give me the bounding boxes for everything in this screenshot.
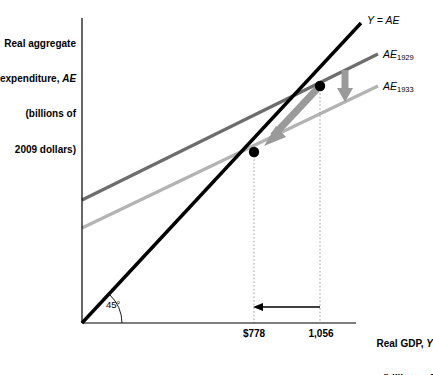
angle-45-label: 45° (106, 299, 120, 310)
series-label-ae-1933: AE1933 (383, 80, 414, 93)
x-tick-label-1056: 1,056 (292, 328, 350, 340)
y-axis-title-line-2-text: expenditure, (0, 73, 62, 84)
x-tick-label-778: $778 (225, 328, 283, 340)
chart-figure: Real aggregate expenditure, AE (billions… (0, 0, 433, 375)
series-label-ae-1929: AE1929 (383, 48, 414, 61)
y-axis-title-line-1: Real aggregate (0, 38, 76, 50)
x-axis-title-line-1-text: Real GDP, (376, 338, 426, 349)
gdp-decline-arrow-icon (253, 303, 320, 311)
y-axis-title: Real aggregate expenditure, AE (billions… (0, 14, 76, 179)
series-label-ae-1929-subscript: 1929 (397, 53, 414, 62)
series-line-ae-1929 (82, 54, 378, 200)
series-line-y-equals-ae (82, 23, 361, 323)
series-label-ae-1933-subscript: 1933 (397, 85, 414, 94)
x-axis-title-y-symbol: Y (426, 338, 433, 349)
x-axis-title-line-1: Real GDP, Y (352, 338, 433, 350)
equilibrium-point-1933 (249, 147, 259, 157)
series-label-ae-1933-base: AE (383, 80, 397, 92)
series-line-ae-1933 (82, 86, 378, 228)
series-label-ae-1929-base: AE (383, 48, 397, 60)
y-axis-title-line-2: expenditure, AE (0, 73, 76, 85)
y-axis-title-ae-symbol: AE (62, 73, 76, 84)
series-label-y-equals-ae: Y = AE (367, 14, 399, 26)
y-axis-title-line-4: 2009 dollars) (0, 144, 76, 156)
equilibrium-point-1929 (315, 81, 325, 91)
x-axis-title: Real GDP, Y (billions of 2009 dollars) (352, 314, 433, 375)
y-axis-title-line-3: (billions of (0, 108, 76, 120)
